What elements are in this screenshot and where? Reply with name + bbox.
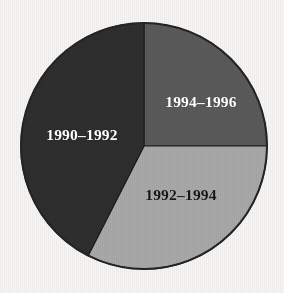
pie-slices-group (21, 23, 267, 269)
pie-chart: 1994–1996 1992–1994 1990–1992 (0, 0, 284, 293)
pie-slice-1994-1996 (144, 23, 267, 146)
pie-chart-canvas (0, 0, 284, 293)
